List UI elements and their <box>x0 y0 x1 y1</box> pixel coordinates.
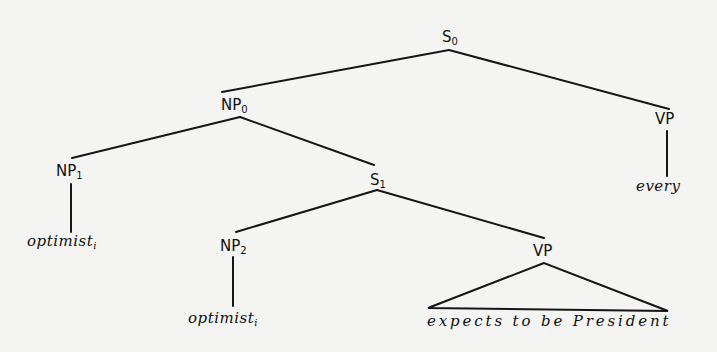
leaf-vp-phrase: expects to be President <box>427 312 669 330</box>
edge-np0-np1 <box>72 117 240 158</box>
edge-s1-np2 <box>236 190 377 232</box>
vp-triangle <box>428 263 668 311</box>
edge-s1-vp <box>377 190 544 238</box>
leaf-optimist-2: optimisti <box>188 309 257 328</box>
node-vp-low: VP <box>533 242 552 260</box>
edge-np0-s1 <box>240 117 374 165</box>
leaf-optimist-1: optimisti <box>27 232 96 251</box>
syntax-tree-diagram: S0 NP0 VP NP1 S1 NP2 VP every optimisti … <box>0 0 717 352</box>
node-np0: NP0 <box>221 96 248 115</box>
node-s0: S0 <box>442 28 458 47</box>
node-vp-top: VP <box>655 110 674 128</box>
edge-s0-np0 <box>222 50 449 92</box>
leaf-every: every <box>636 177 680 195</box>
node-s1: S1 <box>370 171 386 190</box>
node-np2: NP2 <box>220 237 247 256</box>
edge-s0-vp <box>449 50 669 109</box>
node-np1: NP1 <box>56 162 83 181</box>
